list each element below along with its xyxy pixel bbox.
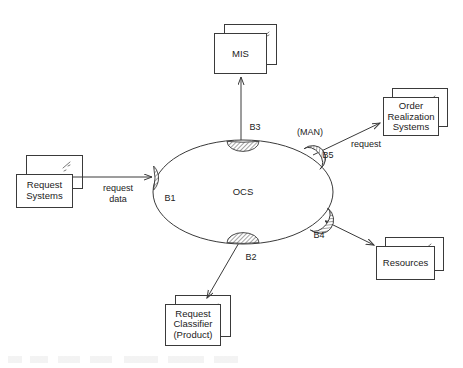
edge-b2-to-request-classifier-line	[207, 241, 240, 298]
node-resources[interactable]: Resources	[377, 238, 444, 280]
edge-b2-to-request-classifier	[207, 241, 240, 298]
page-caption-artifact	[8, 356, 238, 363]
edge-b5-to-order-realization-systems-label: request	[351, 139, 382, 149]
ocs-label: OCS	[233, 186, 254, 197]
port-b2[interactable]: B2	[227, 233, 259, 263]
port-b3[interactable]: B3	[227, 122, 261, 151]
node-order-realization-systems-label-line1: Order	[399, 100, 423, 111]
component-port-diagram: MIS Order Realization Systems Resources …	[0, 0, 463, 368]
node-request-systems-label-line2: Systems	[26, 190, 63, 201]
annotation-man: (MAN)	[297, 127, 323, 137]
port-b3-label: B3	[249, 122, 260, 132]
edge-request-systems-to-b1-label-line2: data	[109, 194, 127, 204]
diagram-canvas: MIS Order Realization Systems Resources …	[0, 0, 463, 368]
node-order-realization-systems-label-line2: Realization	[388, 111, 435, 122]
port-b2-label: B2	[245, 252, 256, 262]
node-request-classifier-label-line1: Request	[175, 308, 211, 319]
edge-request-systems-to-b1: request data	[73, 177, 153, 204]
edge-request-systems-to-b1-label-line1: request	[103, 183, 134, 193]
port-b4-label: B4	[313, 230, 324, 240]
node-mis-label: MIS	[232, 48, 249, 59]
port-b1-label: B1	[164, 193, 175, 203]
node-mis[interactable]: MIS	[215, 25, 277, 74]
node-order-realization-systems[interactable]: Order Realization Systems	[384, 89, 448, 136]
node-request-classifier-label-line3: (Product)	[173, 329, 212, 340]
port-b5-label: B5	[322, 150, 333, 160]
node-order-realization-systems-label-line3: Systems	[393, 121, 430, 132]
center-component-ocs[interactable]: OCS	[153, 140, 333, 244]
node-request-systems-label-line1: Request	[27, 179, 63, 190]
node-request-systems[interactable]: Request Systems	[17, 156, 83, 208]
node-request-classifier-label-line2: Classifier	[173, 318, 212, 329]
node-resources-label: Resources	[383, 257, 429, 268]
node-request-classifier[interactable]: Request Classifier (Product)	[166, 296, 231, 346]
